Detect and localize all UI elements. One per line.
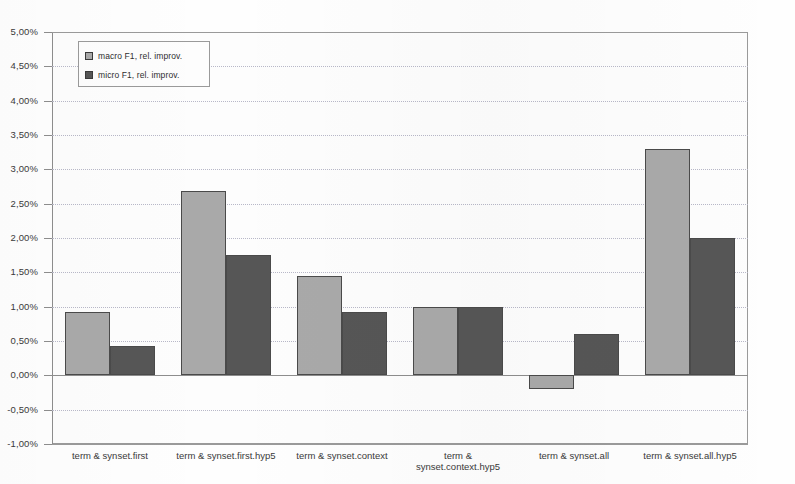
bars-layer — [52, 32, 748, 444]
y-tick — [44, 272, 52, 273]
bar — [413, 307, 458, 376]
y-tick — [44, 375, 52, 376]
x-axis-category-label: term & synset.context.hyp5 — [400, 450, 516, 472]
bar — [458, 307, 503, 376]
bar — [110, 346, 155, 376]
bar — [65, 312, 110, 375]
gridline — [52, 444, 748, 445]
y-tick — [44, 101, 52, 102]
legend-swatch-micro-icon — [85, 71, 93, 79]
y-tick — [44, 66, 52, 67]
x-axis-category-label: term & synset.first — [52, 450, 168, 461]
y-axis-tick-label: 1,00% — [0, 301, 38, 312]
legend-label-micro: micro F1, rel. improv. — [98, 70, 179, 80]
legend-item-macro: macro F1, rel. improv. — [85, 47, 203, 64]
x-axis-category-label: term & synset.all.hyp5 — [632, 450, 748, 461]
bar — [297, 276, 342, 376]
y-axis-tick-label: 0,50% — [0, 335, 38, 346]
y-tick — [44, 444, 52, 445]
bar — [226, 255, 271, 375]
bar — [690, 238, 735, 375]
legend-item-micro: micro F1, rel. improv. — [85, 66, 203, 83]
bar — [342, 312, 387, 375]
legend: macro F1, rel. improv. micro F1, rel. im… — [78, 41, 210, 87]
legend-swatch-macro-icon — [85, 52, 93, 60]
y-axis-tick-label: -1,00% — [0, 438, 38, 449]
y-axis-tick-label: 3,50% — [0, 129, 38, 140]
legend-label-macro: macro F1, rel. improv. — [98, 51, 182, 61]
y-tick — [44, 169, 52, 170]
y-tick — [44, 307, 52, 308]
bar-chart: 5,00%4,50%4,00%3,50%3,00%2,50%2,00%1,50%… — [0, 0, 795, 484]
bar — [529, 375, 574, 389]
x-axis-category-label: term & synset.context — [284, 450, 400, 461]
x-axis-category-label: term & synset.all — [516, 450, 632, 461]
bar — [181, 191, 226, 375]
y-axis-tick-label: 3,00% — [0, 163, 38, 174]
y-tick — [44, 410, 52, 411]
y-axis-tick-label: -0,50% — [0, 404, 38, 415]
x-axis-category-label: term & synset.first.hyp5 — [168, 450, 284, 461]
y-axis-tick-label: 4,50% — [0, 60, 38, 71]
y-axis-tick-label: 0,00% — [0, 369, 38, 380]
bar — [574, 334, 619, 375]
y-axis-tick-label: 5,00% — [0, 26, 38, 37]
y-axis-tick-label: 4,00% — [0, 95, 38, 106]
y-tick — [44, 204, 52, 205]
bar — [645, 149, 690, 376]
y-tick — [44, 238, 52, 239]
y-axis-tick-label: 2,00% — [0, 232, 38, 243]
y-tick — [44, 341, 52, 342]
y-tick — [44, 32, 52, 33]
y-tick — [44, 135, 52, 136]
y-axis-tick-label: 2,50% — [0, 198, 38, 209]
y-axis-tick-label: 1,50% — [0, 266, 38, 277]
